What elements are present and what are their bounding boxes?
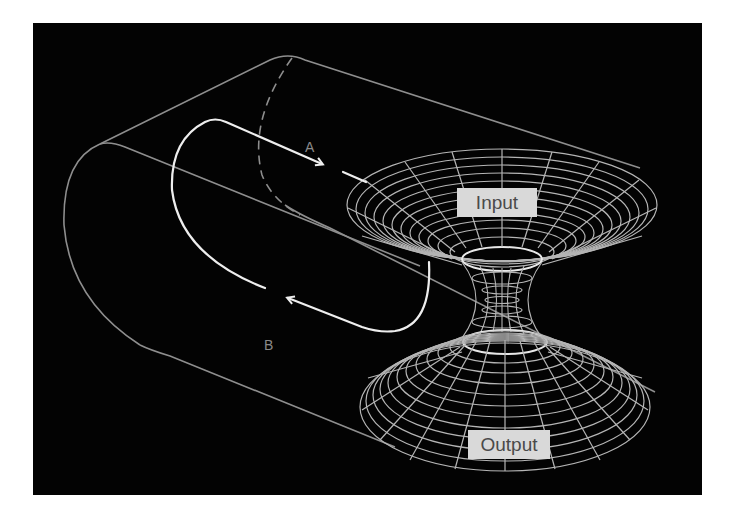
arrow-a (172, 120, 322, 289)
wormhole-diagram (0, 0, 730, 517)
output-label: Output (468, 430, 550, 459)
input-label: Input (457, 188, 537, 217)
path-b-label: B (264, 337, 273, 353)
arrow-a-continuation (343, 172, 366, 182)
path-a-label: A (305, 139, 314, 155)
loop-path (172, 120, 429, 332)
arrow-b (288, 262, 429, 332)
